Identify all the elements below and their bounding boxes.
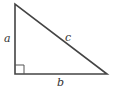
right-triangle-diagram: a c b — [0, 0, 116, 90]
label-side-a: a — [4, 32, 11, 45]
label-side-b: b — [57, 76, 64, 89]
label-hypotenuse-c: c — [65, 31, 71, 44]
right-angle-marker — [15, 65, 24, 74]
triangle-outline — [15, 4, 107, 74]
